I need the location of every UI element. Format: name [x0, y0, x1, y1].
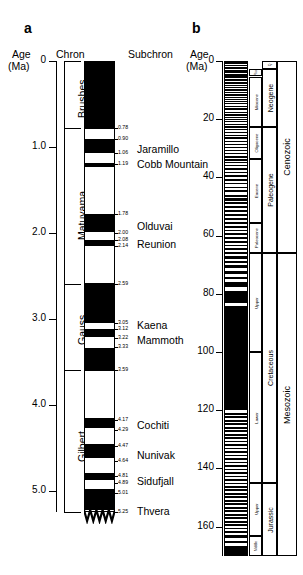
panel-a-letter: a — [24, 20, 32, 36]
polarity-band-normal — [225, 514, 247, 516]
polarity-band-normal — [225, 147, 247, 148]
panel-a-tick-5 — [49, 491, 57, 492]
series-box-pliocene: Plio — [249, 69, 262, 77]
polarity-band-normal — [225, 95, 247, 96]
polarity-band-normal — [225, 72, 247, 73]
polarity-band-normal — [85, 348, 114, 370]
subchron-label-jaramillo: Jaramillo — [137, 143, 179, 155]
polarity-band-normal — [225, 476, 247, 478]
polarity-band-normal — [225, 77, 247, 78]
boundary-age-0-78: 0.78 — [118, 125, 128, 130]
boundary-age-0-90: 0.90 — [118, 136, 128, 141]
polarity-band-normal — [225, 101, 247, 102]
polarity-band-normal — [85, 283, 114, 323]
system-label-paleogene: Paleogene — [266, 173, 273, 206]
polarity-band-normal — [225, 226, 247, 228]
column-bottom-zigzag-icon — [84, 510, 115, 524]
polarity-band-normal — [225, 531, 247, 533]
polarity-band-normal — [225, 291, 247, 303]
era-label-cenozoic: Cenozoic — [282, 138, 292, 176]
subchron-label-reunion: Reunion — [137, 238, 176, 250]
polarity-band-normal — [225, 218, 247, 220]
polarity-band-normal — [225, 265, 247, 268]
series-box-eocene: Eocene — [249, 159, 262, 223]
polarity-band-normal — [225, 535, 247, 538]
series-box-cretaceous-lower: Lower — [249, 352, 262, 483]
polarity-band-normal — [225, 183, 247, 185]
polarity-band-normal — [225, 455, 247, 457]
polarity-band-normal — [225, 413, 247, 415]
panel-b-tick-label-140: 140 — [182, 461, 214, 472]
boundary-age-1-78: 1.78 — [118, 211, 128, 216]
polarity-band-normal — [225, 214, 247, 216]
polarity-band-normal — [225, 137, 247, 138]
polarity-band-normal — [225, 162, 247, 163]
polarity-band-normal — [225, 241, 247, 243]
boundary-age-4-17: 4.17 — [118, 417, 128, 422]
series-label-cretaceous-upper: Upper — [253, 297, 258, 308]
polarity-band-normal — [225, 500, 247, 502]
polarity-band-normal — [225, 479, 247, 481]
polarity-band-normal — [225, 256, 247, 258]
panel-b-axis-line — [222, 61, 223, 556]
panel-b-tick-140 — [216, 468, 223, 469]
series-label-paleocene: Paleocene — [253, 228, 258, 248]
series-label-jurassic-upper: Upper — [253, 504, 258, 515]
polarity-band-normal — [225, 126, 247, 127]
panel-b-tick-60 — [216, 236, 223, 237]
system-box-quaternary: Q — [262, 61, 277, 69]
polarity-band-normal — [225, 248, 247, 250]
subchron-label-mammoth: Mammoth — [137, 334, 184, 346]
polarity-band-normal — [225, 119, 247, 120]
polarity-band-normal — [225, 141, 247, 142]
subchron-label-cochiti: Cochiti — [137, 419, 169, 431]
panel-b-tick-100 — [216, 352, 223, 353]
subchron-label-sidufjall: Sidufjall — [137, 475, 174, 487]
system-label-quaternary: Q — [268, 63, 272, 66]
series-label-pliocene: Plio — [254, 70, 258, 76]
polarity-band-normal — [225, 444, 247, 446]
boundary-age-4-29: 4.29 — [118, 427, 128, 432]
polarity-band-normal — [225, 237, 247, 239]
polarity-band-normal — [225, 245, 247, 247]
system-box-jurassic: Jurassic — [262, 483, 277, 556]
polarity-band-normal — [225, 441, 247, 443]
panel-a-tick-0 — [49, 61, 57, 62]
polarity-band-normal — [225, 222, 247, 224]
polarity-band-normal — [225, 230, 247, 232]
polarity-band-normal — [85, 444, 114, 459]
polarity-band-normal — [225, 103, 247, 104]
polarity-band-normal — [225, 153, 247, 154]
polarity-band-normal — [225, 206, 247, 208]
panel-a-tick-label-0: 0 — [12, 54, 46, 65]
series-label-cretaceous-lower: Lower — [253, 412, 258, 423]
panel-b-tick-label-0: 0 — [182, 54, 214, 65]
series-label-jurassic-middle: Middle — [254, 541, 258, 551]
polarity-band-normal — [85, 139, 114, 153]
polarity-band-normal — [85, 240, 114, 245]
series-box-miocene: Miocene — [249, 77, 262, 127]
panel-a-polarity-column — [84, 61, 115, 512]
panel-a-tick-label-3: 3.0 — [12, 312, 46, 323]
polarity-band-normal — [85, 163, 114, 167]
polarity-band-normal — [225, 121, 247, 122]
polarity-band-normal — [225, 87, 247, 88]
panel-b-tick-label-80: 80 — [182, 287, 214, 298]
polarity-band-normal — [85, 489, 114, 510]
polarity-band-normal — [225, 65, 247, 66]
panel-b-tick-20 — [216, 119, 223, 120]
system-box-neogene: Neogene — [262, 69, 277, 127]
polarity-band-normal — [225, 423, 247, 425]
polarity-band-normal — [225, 109, 247, 110]
polarity-band-normal — [225, 507, 247, 509]
boundary-age-2-59: 2.59 — [118, 281, 128, 286]
panel-a-tick-2 — [49, 233, 57, 234]
era-box-mesozoic: Mesozoic — [277, 253, 297, 556]
boundary-age-3-12: 3.12 — [118, 326, 128, 331]
polarity-band-normal — [225, 546, 247, 555]
polarity-band-normal — [225, 190, 247, 192]
polarity-band-normal — [225, 179, 247, 181]
system-box-cretaceous: Cretaceous — [262, 253, 277, 483]
polarity-band-normal — [85, 62, 114, 129]
era-box-cenozoic: Cenozoic — [277, 61, 297, 253]
